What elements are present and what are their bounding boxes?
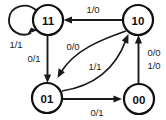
edge-11-to-01: [44, 35, 51, 83]
state-node-10-label: 10: [132, 15, 145, 27]
edge-01-to-00: [62, 95, 122, 102]
state-machine-diagram: 11 10 01 00 1/1 1/0 0/1 0/0 1/1 0/1 0/0 …: [0, 0, 166, 120]
edge-label-10-to-01: 0/0: [66, 41, 79, 52]
edge-label-01-to-00: 0/1: [90, 107, 103, 118]
edge-label-11-to-01: 0/1: [27, 53, 40, 64]
state-node-00-label: 00: [133, 94, 146, 106]
state-node-11[interactable]: 11: [33, 5, 63, 35]
edge-label-00-to-10-one: 1/0: [147, 60, 160, 71]
edge-label-self-loop-11: 1/1: [9, 39, 22, 50]
state-node-01[interactable]: 01: [32, 83, 62, 113]
state-node-10[interactable]: 10: [123, 5, 153, 35]
edge-10-to-01-arrowhead: [58, 68, 65, 78]
edge-11-to-01-arrowhead: [44, 75, 51, 84]
edge-10-to-11-arrowhead: [64, 16, 73, 23]
state-node-01-label: 01: [41, 93, 54, 105]
edge-00-to-10-arrowhead: [135, 35, 142, 44]
edge-label-10-to-11: 1/0: [86, 4, 99, 15]
state-node-00[interactable]: 00: [124, 84, 154, 114]
edge-10-to-11: [64, 16, 124, 23]
edge-01-to-00-arrowhead: [114, 95, 123, 102]
edge-label-01-to-10: 1/1: [88, 61, 101, 72]
edge-label-00-to-10-zero: 0/0: [147, 47, 160, 58]
fsm-canvas: 11 10 01 00 1/1 1/0 0/1 0/0 1/1 0/1 0/0 …: [0, 0, 166, 120]
state-node-11-label: 11: [42, 15, 55, 27]
edge-00-to-10: [135, 35, 142, 84]
